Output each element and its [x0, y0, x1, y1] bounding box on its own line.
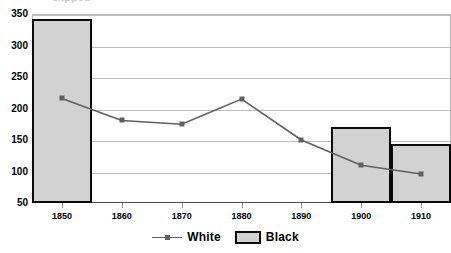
legend: White Black: [0, 230, 451, 244]
chart-figure: clipped 35030025020015010050 18501860187…: [0, 0, 451, 253]
legend-item-black[interactable]: Black: [235, 230, 299, 244]
legend-swatch-icon: [235, 231, 261, 244]
data-point-marker: [59, 96, 64, 101]
line-series-white: [0, 0, 451, 253]
legend-item-white[interactable]: White: [152, 230, 221, 244]
data-point-marker: [119, 118, 124, 123]
data-point-marker: [239, 97, 244, 102]
data-point-marker: [299, 138, 304, 143]
data-point-marker: [359, 163, 364, 168]
white-line-path: [62, 98, 421, 174]
data-point-marker: [419, 172, 424, 177]
legend-label-white: White: [187, 230, 221, 244]
legend-line-marker-icon: [152, 235, 182, 240]
data-point-marker: [179, 122, 184, 127]
legend-label-black: Black: [266, 230, 299, 244]
